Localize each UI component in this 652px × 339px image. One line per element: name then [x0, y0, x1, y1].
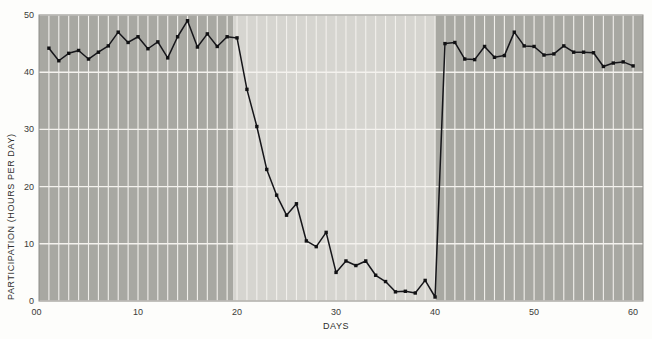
x-tick-label-60: 60 [628, 307, 638, 317]
y-axis-tick-labels: 01020304050 [24, 10, 34, 306]
data-point-marker [255, 125, 258, 128]
chart-figure: 01020304050 01020304050600 PARTICIPATION… [0, 0, 652, 339]
x-tick-label-10: 10 [133, 307, 143, 317]
data-point-marker [156, 40, 159, 43]
data-point-marker [354, 264, 357, 267]
y-tick-label-30: 30 [24, 124, 34, 134]
data-point-marker [572, 50, 575, 53]
data-point-marker [384, 280, 387, 283]
x-tick-label-50: 50 [529, 307, 539, 317]
data-point-marker [47, 46, 50, 49]
y-tick-label-20: 20 [24, 182, 34, 192]
data-point-marker [77, 49, 80, 52]
data-point-marker [206, 32, 209, 35]
data-point-marker [344, 259, 347, 262]
phase-band-baseline [39, 15, 233, 301]
y-tick-label-0: 0 [29, 296, 34, 306]
data-point-marker [423, 279, 426, 282]
data-point-marker [522, 44, 525, 47]
data-point-marker [126, 41, 129, 44]
x-axis-title: DAYS [323, 321, 349, 331]
x-axis-tick-labels: 01020304050600 [31, 307, 638, 317]
data-point-marker [631, 64, 634, 67]
data-point-marker [582, 50, 585, 53]
data-point-marker [295, 202, 298, 205]
data-point-marker [592, 51, 595, 54]
data-point-marker [315, 245, 318, 248]
data-point-marker [107, 44, 110, 47]
data-point-marker [364, 259, 367, 262]
data-point-marker [483, 45, 486, 48]
data-point-marker [513, 30, 516, 33]
data-point-marker [374, 274, 377, 277]
data-point-marker [414, 291, 417, 294]
data-point-marker [225, 35, 228, 38]
data-point-marker [453, 41, 456, 44]
x-tick-label-20: 20 [232, 307, 242, 317]
data-point-marker [305, 239, 308, 242]
data-point-marker [166, 56, 169, 59]
data-point-marker [136, 35, 139, 38]
data-point-marker [196, 45, 199, 48]
y-tick-label-10: 10 [24, 239, 34, 249]
data-point-marker [404, 290, 407, 293]
phase-shaded-bands [39, 15, 643, 301]
x-tick-label-30: 30 [331, 307, 341, 317]
data-point-marker [117, 30, 120, 33]
data-point-marker [57, 59, 60, 62]
data-point-marker [552, 52, 555, 55]
data-point-marker [463, 57, 466, 60]
data-point-marker [324, 231, 327, 234]
data-point-marker [622, 60, 625, 63]
data-point-marker [443, 42, 446, 45]
data-point-marker [394, 290, 397, 293]
data-point-marker [146, 47, 149, 50]
data-point-marker [265, 168, 268, 171]
data-point-marker [97, 50, 100, 53]
y-tick-label-40: 40 [24, 67, 34, 77]
data-point-marker [532, 45, 535, 48]
x-tick-label-40: 40 [430, 307, 440, 317]
data-point-marker [334, 271, 337, 274]
data-point-marker [612, 61, 615, 64]
data-point-marker [602, 65, 605, 68]
data-point-marker [176, 35, 179, 38]
data-point-marker [87, 57, 90, 60]
y-tick-label-50: 50 [24, 10, 34, 20]
data-point-marker [235, 36, 238, 39]
data-point-marker [216, 45, 219, 48]
data-point-marker [562, 44, 565, 47]
data-point-marker [542, 53, 545, 56]
data-point-marker [433, 295, 436, 298]
data-point-marker [67, 52, 70, 55]
origin-tick-label: 0 [31, 307, 36, 317]
data-point-marker [503, 54, 506, 57]
data-point-marker [275, 193, 278, 196]
y-axis-title: PARTICIPATION (HOURS PER DAY) [6, 133, 16, 300]
data-point-marker [473, 58, 476, 61]
participation-line-chart: 01020304050 01020304050600 PARTICIPATION… [0, 0, 652, 339]
data-point-marker [186, 19, 189, 22]
data-point-marker [493, 56, 496, 59]
data-point-marker [245, 88, 248, 91]
data-point-marker [285, 214, 288, 217]
x-tick-label-0: 0 [36, 307, 41, 317]
